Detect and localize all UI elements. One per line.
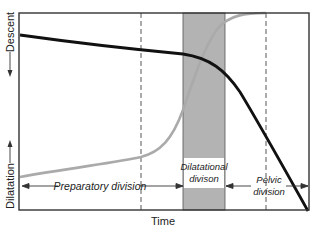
y-axis-top-group: Descent <box>4 12 16 77</box>
labor-curve-diagram: Preparatory division Dilatational diviso… <box>0 0 314 232</box>
descent-arrow-head <box>8 70 13 77</box>
y-axis-bottom-label: Dilatation <box>4 163 16 209</box>
dilatational-division-label-1: Dilatational <box>181 161 229 172</box>
preparatory-division-label: Preparatory division <box>54 180 147 192</box>
pelvic-division-label-2: division <box>253 186 285 197</box>
x-axis-label: Time <box>151 215 175 227</box>
dilatation-arrow-head <box>8 140 13 147</box>
y-axis-bottom-group: Dilatation <box>4 140 16 209</box>
pelvic-division-label-1: Pelvic <box>256 174 282 185</box>
dilatation-curve <box>20 13 266 177</box>
dilatational-division-label-2: divison <box>189 173 219 184</box>
y-axis-top-label: Descent <box>4 12 16 52</box>
